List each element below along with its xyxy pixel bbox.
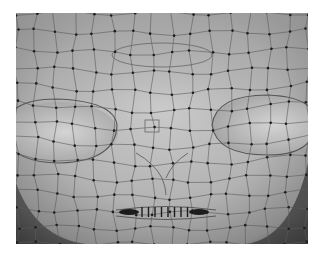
mesh-canvas (16, 13, 308, 244)
face-mesh-render (16, 13, 308, 244)
